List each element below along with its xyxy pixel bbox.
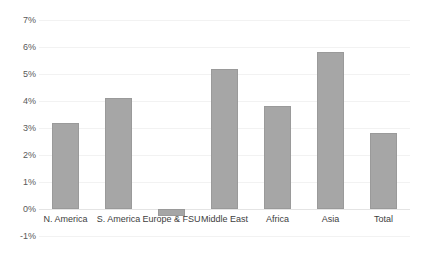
y-tick-label: 5%: [2, 70, 36, 79]
bar-slot: [198, 20, 251, 236]
bar-slot: [145, 20, 198, 236]
x-axis: N. AmericaS. AmericaEurope & FSUMiddle E…: [39, 212, 410, 230]
x-tick-label: Asia: [322, 212, 340, 226]
bars-layer: [39, 20, 410, 236]
bar-slot: [304, 20, 357, 236]
y-tick-label: 6%: [2, 43, 36, 52]
bar[interactable]: [105, 98, 132, 209]
y-tick-label: -1%: [2, 232, 36, 241]
y-tick-label: 2%: [2, 151, 36, 160]
bar[interactable]: [52, 123, 79, 209]
y-tick-label: 7%: [2, 16, 36, 25]
x-tick-label: Europe & FSU: [142, 212, 200, 226]
bar-slot: [39, 20, 92, 236]
x-tick-label: S. America: [97, 212, 141, 226]
y-tick-label: 4%: [2, 97, 36, 106]
bar-chart: 7%6%5%4%3%2%1%0%-1% N. AmericaS. America…: [0, 0, 422, 262]
bar-slot: [357, 20, 410, 236]
gridline: [39, 236, 410, 237]
y-tick-label: 1%: [2, 178, 36, 187]
x-tick-label: Total: [374, 212, 393, 226]
x-tick-label: Africa: [266, 212, 289, 226]
bar[interactable]: [317, 52, 344, 209]
y-axis: 7%6%5%4%3%2%1%0%-1%: [0, 20, 36, 236]
bar-slot: [251, 20, 304, 236]
x-tick-label: Middle East: [201, 212, 248, 226]
bar[interactable]: [211, 69, 238, 209]
y-tick-label: 3%: [2, 124, 36, 133]
y-tick-label: 0%: [2, 205, 36, 214]
bar-slot: [92, 20, 145, 236]
bar[interactable]: [370, 133, 397, 209]
x-tick-label: N. America: [43, 212, 87, 226]
bar[interactable]: [264, 106, 291, 209]
